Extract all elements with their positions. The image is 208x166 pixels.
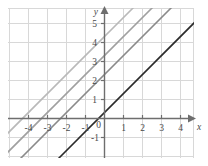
- y-tick-label-4: 4: [92, 38, 97, 48]
- x-tick-label-neg1: -1: [82, 123, 90, 133]
- x-axis-label: x: [196, 122, 202, 132]
- y-tick-label-2: 2: [92, 76, 97, 86]
- x-tick-label-neg2: -2: [63, 123, 71, 133]
- x-tick-label-4: 4: [178, 123, 183, 133]
- x-tick-label-2: 2: [140, 123, 145, 133]
- y-axis-label: y: [93, 7, 99, 17]
- y-tick-label-3: 3: [92, 57, 97, 67]
- y-tick-label-neg1: -1: [91, 133, 99, 143]
- plot-background: [8, 8, 194, 158]
- y-tick-label-1: 1: [92, 95, 97, 105]
- x-tick-label-neg3: -3: [44, 123, 52, 133]
- x-tick-label-3: 3: [159, 123, 164, 133]
- coordinate-plane-plot: -4 -3 -2 -1 1 2 3 4 5 4 3 2 1 -1 0 y x: [0, 0, 208, 166]
- graph-figure: -4 -3 -2 -1 1 2 3 4 5 4 3 2 1 -1 0 y x: [0, 0, 208, 166]
- origin-label: 0: [96, 120, 101, 130]
- x-tick-label-1: 1: [121, 123, 126, 133]
- x-tick-label-neg4: -4: [25, 123, 33, 133]
- y-tick-label-5: 5: [92, 19, 97, 29]
